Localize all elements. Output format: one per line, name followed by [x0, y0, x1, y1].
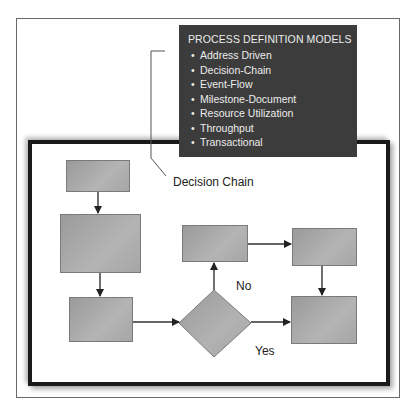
no-label: No	[236, 279, 251, 293]
process-box-3	[69, 297, 133, 342]
legend-item: Decision-Chain	[188, 63, 357, 78]
legend-item: Resource Utilization	[188, 106, 357, 121]
legend-item: Milestone-Document	[188, 92, 357, 107]
process-box-no-branch	[182, 225, 248, 262]
legend-item: Throughput	[188, 121, 357, 136]
process-box-end	[291, 296, 357, 344]
callout-label: Decision Chain	[173, 175, 254, 189]
legend-item: Transactional	[188, 135, 357, 150]
legend-title: PROCESS DEFINITION MODELS	[188, 33, 357, 45]
process-models-legend: PROCESS DEFINITION MODELS Address Driven…	[179, 25, 357, 157]
legend-item: Address Driven	[188, 48, 357, 63]
process-box-upper-right	[292, 228, 357, 266]
process-box-start	[66, 160, 130, 192]
yes-label: Yes	[255, 344, 275, 358]
legend-item: Event-Flow	[188, 77, 357, 92]
process-box-2	[60, 214, 141, 273]
